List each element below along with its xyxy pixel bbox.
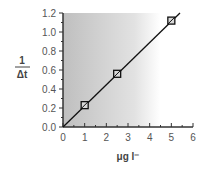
x-tick-label: 0	[60, 132, 66, 143]
y-tick-label: 0.0	[42, 122, 56, 133]
y-tick-label: 0.2	[42, 103, 56, 114]
y-tick-label: 0.6	[42, 65, 56, 76]
x-tick-label: 6	[190, 132, 196, 143]
y-axis-title-denominator: Δt	[17, 69, 28, 80]
x-axis-title: μg l⁻	[117, 151, 140, 162]
y-tick-label: 0.8	[42, 46, 56, 57]
y-tick-label: 0.4	[42, 84, 56, 95]
x-tick-label: 2	[104, 132, 110, 143]
plot-background	[63, 13, 193, 127]
y-axis-title-numerator: 1	[19, 55, 25, 66]
y-tick-label: 1.0	[42, 27, 56, 38]
x-tick-label: 5	[169, 132, 175, 143]
data-point	[81, 102, 88, 109]
data-point	[114, 70, 121, 77]
chart: 01234560.00.20.40.60.81.01.2 μg l⁻ 1 Δt	[0, 0, 206, 176]
x-tick-label: 3	[125, 132, 131, 143]
y-tick-label: 1.2	[42, 8, 56, 19]
x-tick-label: 1	[82, 132, 88, 143]
x-tick-label: 4	[147, 132, 153, 143]
data-point	[168, 17, 175, 24]
